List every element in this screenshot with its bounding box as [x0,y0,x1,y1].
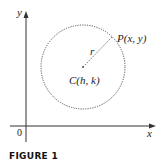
radius-line [83,37,112,67]
x-axis-label: x [146,127,152,139]
origin-label: 0 [17,127,22,138]
center-point [82,66,84,68]
circle-diagram: y x 0 P(x, y) r C(h, k) FIGURE 1 [0,0,166,165]
y-axis-label: y [16,6,22,18]
figure-caption: FIGURE 1 [9,151,58,161]
radius-label: r [90,45,95,57]
point-label: P(x, y) [116,32,147,45]
y-axis-arrow-icon [24,11,29,18]
center-label: C(h, k) [69,74,100,87]
